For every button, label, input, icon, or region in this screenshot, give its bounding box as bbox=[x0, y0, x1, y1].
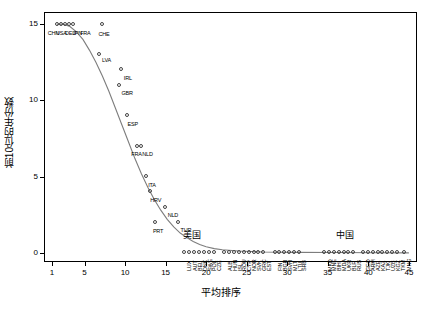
data-point bbox=[376, 250, 380, 254]
point-label: IRL bbox=[124, 75, 132, 81]
data-point bbox=[59, 22, 63, 26]
data-point bbox=[117, 83, 121, 87]
x-tick-label: 5 bbox=[73, 268, 97, 277]
y-tick bbox=[40, 253, 44, 254]
y-tick bbox=[40, 100, 44, 101]
data-point bbox=[342, 250, 346, 254]
data-point bbox=[71, 22, 75, 26]
point-label: PRT bbox=[153, 228, 163, 234]
point-label: NLD bbox=[142, 151, 152, 157]
point-label: GBR bbox=[121, 90, 132, 96]
data-point bbox=[100, 22, 104, 26]
data-point bbox=[402, 250, 406, 254]
x-tick bbox=[125, 262, 126, 266]
y-tick bbox=[40, 177, 44, 178]
data-point bbox=[252, 250, 256, 254]
annotation: 美国 bbox=[183, 228, 201, 241]
annotation: 中国 bbox=[336, 228, 354, 241]
y-axis-title: 前10位的年份数 bbox=[2, 97, 17, 168]
y-tick-label: 0 bbox=[18, 248, 38, 257]
x-tick bbox=[166, 262, 167, 266]
point-label: CZE bbox=[216, 260, 222, 270]
x-tick-label: 1 bbox=[40, 268, 64, 277]
x-tick bbox=[85, 262, 86, 266]
point-label: LVA bbox=[102, 57, 111, 63]
point-label: RUS bbox=[356, 260, 362, 271]
y-tick-label: 15 bbox=[18, 19, 38, 28]
point-label: FRA bbox=[80, 30, 90, 36]
x-tick-label: 10 bbox=[113, 268, 137, 277]
point-label: CHE bbox=[98, 31, 109, 37]
y-tick bbox=[40, 24, 44, 25]
y-tick-label: 5 bbox=[18, 172, 38, 181]
data-point bbox=[144, 174, 148, 178]
data-point bbox=[63, 22, 67, 26]
point-label: EST bbox=[266, 261, 272, 271]
data-point bbox=[163, 205, 167, 209]
data-point bbox=[139, 144, 143, 148]
point-label: FRA bbox=[131, 151, 141, 157]
data-point bbox=[176, 220, 180, 224]
x-tick bbox=[52, 262, 53, 266]
point-label: TKM bbox=[400, 260, 406, 271]
chart-root: 151015202530354045051015CHNUSADEUJPNFRAC… bbox=[0, 0, 429, 309]
point-label: HRV bbox=[150, 197, 161, 203]
point-label: ITA bbox=[148, 182, 156, 188]
point-label: SRB bbox=[301, 260, 307, 271]
x-tick-label: 15 bbox=[154, 268, 178, 277]
x-axis-title: 平均排序 bbox=[201, 284, 241, 299]
point-label: MNG bbox=[406, 259, 412, 271]
point-label: NLD bbox=[168, 212, 178, 218]
point-label: ESP bbox=[128, 121, 138, 127]
data-point bbox=[273, 250, 277, 254]
y-tick-label: 10 bbox=[18, 95, 38, 104]
